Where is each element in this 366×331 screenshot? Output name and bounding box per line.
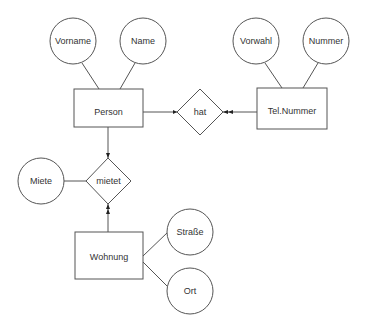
attribute-label: Nummer [309, 36, 344, 46]
double-arrowhead-icon [106, 209, 110, 214]
relationship-mietet[interactable]: mietet [86, 158, 131, 204]
attribute-vorname[interactable]: Vorname [50, 18, 96, 64]
edge-vorname-person [82, 63, 99, 89]
edge-vorwahl-telnummer [265, 63, 282, 88]
attribute-nummer[interactable]: Nummer [303, 18, 349, 64]
attribute-label: Ort [184, 286, 197, 296]
entity-telnummer[interactable]: Tel.Nummer [257, 88, 327, 129]
edge-wohnung-strasse [143, 232, 168, 256]
relationship-hat[interactable]: hat [177, 89, 223, 135]
attribute-label: Straße [176, 227, 203, 237]
attribute-label: Miete [30, 176, 52, 186]
entity-wohnung[interactable]: Wohnung [75, 232, 143, 279]
relationship-label: hat [194, 107, 207, 117]
double-arrowhead-icon [106, 204, 110, 209]
attribute-label: Name [131, 36, 155, 46]
attribute-miete[interactable]: Miete [18, 158, 64, 204]
entity-person[interactable]: Person [74, 89, 143, 127]
attribute-label: Vorname [55, 36, 91, 46]
edge-nummer-telnummer [303, 63, 318, 88]
attribute-name[interactable]: Name [120, 18, 166, 64]
entity-label: Wohnung [90, 252, 128, 262]
double-arrowhead-icon [223, 110, 228, 114]
attribute-strasse[interactable]: Straße [167, 209, 213, 255]
entity-label: Person [94, 107, 123, 117]
double-arrowhead-icon [228, 110, 233, 114]
relationship-label: mietet [96, 176, 121, 186]
attribute-ort[interactable]: Ort [167, 268, 213, 314]
attribute-label: Vorwahl [240, 36, 272, 46]
attribute-vorwahl[interactable]: Vorwahl [233, 18, 279, 64]
edge-name-person [120, 63, 135, 89]
edge-wohnung-ort [143, 262, 168, 287]
er-diagram: Vorname Name Vorwahl Nummer Miete Straße… [0, 0, 366, 331]
arrowhead-icon [106, 153, 110, 158]
entity-label: Tel.Nummer [268, 106, 317, 116]
